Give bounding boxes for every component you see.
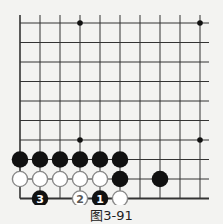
stone-move-number: 2 <box>76 193 84 206</box>
black-stone <box>12 151 29 168</box>
black-stone <box>92 151 109 168</box>
go-board: 321 <box>0 0 223 205</box>
stone-move-number: 3 <box>36 193 44 206</box>
black-stone <box>52 151 69 168</box>
star-point <box>77 20 83 26</box>
star-point <box>77 137 83 143</box>
white-stone <box>92 171 107 186</box>
figure-caption: 图3-91 <box>0 205 223 224</box>
star-point <box>197 137 203 143</box>
stone-move-number: 1 <box>96 193 104 206</box>
white-stone <box>52 171 67 186</box>
star-point <box>197 20 203 26</box>
black-stone <box>112 151 129 168</box>
black-stone <box>112 171 129 188</box>
white-stone <box>72 171 87 186</box>
black-stone <box>152 171 169 188</box>
white-stone <box>32 171 47 186</box>
white-stone <box>112 191 127 205</box>
black-stone <box>32 151 49 168</box>
white-stone <box>12 171 27 186</box>
black-stone <box>72 151 89 168</box>
